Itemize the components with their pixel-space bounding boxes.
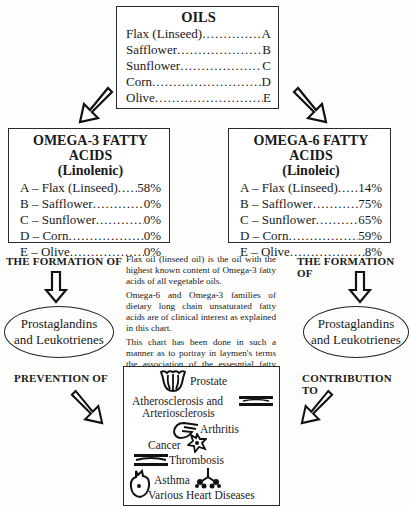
description-paragraph: Omega-6 and Omega-3 families of dietary …: [126, 290, 276, 334]
omega6-row: C – Sunflower65%: [240, 212, 382, 228]
prevention-label: PREVENTION OF: [14, 372, 108, 384]
omega3-row: B – Safflower0%: [20, 196, 161, 212]
omega6-subtitle: (Linoleic): [240, 163, 382, 178]
right-ellipse: Prostaglandinsand Leukotrienes: [303, 306, 409, 358]
omega3-title: OMEGA-3 FATTY ACIDS: [20, 133, 161, 163]
oil-row: SafflowerB: [126, 42, 271, 58]
left-ellipse-line1: Prostaglandins: [14, 316, 104, 332]
arrow-down-left-icon: [78, 86, 114, 124]
right-ellipse-line2: and Leukotrienes: [311, 332, 401, 348]
artery-icon: [239, 395, 273, 407]
oils-title: OILS: [126, 10, 271, 25]
oil-row: CornD: [126, 74, 271, 90]
omega3-box: OMEGA-3 FATTY ACIDS (Linolenic) A – Flax…: [8, 128, 170, 243]
arrow-down-right-icon: [70, 388, 104, 426]
description-paragraph: Flax oil (linseed oil) is the oil with t…: [126, 254, 276, 287]
arrow-down-icon: [44, 270, 68, 304]
prostate-icon: [158, 369, 188, 393]
omega6-box: OMEGA-6 FATTY ACIDS (Linoleic) A – Flax …: [228, 128, 391, 243]
omega3-row: C – Sunflower0%: [20, 212, 161, 228]
omega6-row: A – Flax (Linseed)14%: [240, 180, 382, 196]
oil-row: SunflowerC: [126, 58, 271, 74]
disease-heart: Various Heart Diseases: [148, 489, 255, 502]
omega3-subtitle: (Linolenic): [20, 163, 161, 178]
clot-vessel-icon: [134, 454, 168, 466]
left-ellipse: Prostaglandinsand Leukotrienes: [4, 306, 114, 358]
omega6-row: D – Corn59%: [240, 228, 382, 244]
omega3-row: D – Corn0%: [20, 228, 161, 244]
left-ellipse-line2: and Leukotrienes: [14, 332, 104, 348]
cancer-cell-icon: [187, 433, 207, 453]
diseases-box: Prostate Atherosclerosis and Arterioscle…: [123, 366, 280, 506]
oil-row: Flax (Linseed)A: [126, 26, 271, 42]
arrow-down-left-icon: [300, 388, 334, 426]
disease-prostate: Prostate: [190, 375, 227, 388]
oils-box: OILS Flax (Linseed)A SafflowerB Sunflowe…: [116, 6, 279, 109]
disease-asthma: Asthma: [154, 474, 190, 487]
arrow-down-right-icon: [292, 86, 328, 124]
arrow-down-icon: [348, 270, 372, 304]
left-formation-label: THE FORMATION OF: [6, 255, 122, 267]
omega6-row: B – Safflower75%: [240, 196, 382, 212]
disease-cancer: Cancer: [148, 439, 181, 452]
disease-arteriosclerosis: Arteriosclerosis: [142, 407, 215, 420]
disease-thrombosis: Thrombosis: [169, 454, 224, 467]
oil-row: OliveE: [126, 90, 271, 106]
omega3-row: A – Flax (Linseed)58%: [20, 180, 161, 196]
omega6-title: OMEGA-6 FATTY ACIDS: [240, 133, 382, 163]
lungs-icon: [194, 467, 222, 489]
right-ellipse-line1: Prostaglandins: [311, 316, 401, 332]
